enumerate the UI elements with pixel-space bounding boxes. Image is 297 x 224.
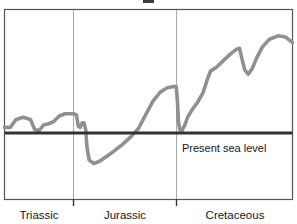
chart-canvas: Present sea level Triassic Jurassic Cret… bbox=[0, 0, 297, 224]
sea-level-chart-figure: Present sea level Triassic Jurassic Cret… bbox=[0, 0, 297, 224]
cropped-title-remnant bbox=[143, 0, 154, 3]
axis-label-jurassic: Jurassic bbox=[104, 209, 146, 221]
axis-label-triassic: Triassic bbox=[19, 209, 58, 221]
axis-label-cretaceous: Cretaceous bbox=[206, 209, 265, 221]
present-sea-level-label: Present sea level bbox=[182, 142, 266, 154]
